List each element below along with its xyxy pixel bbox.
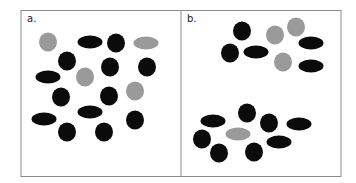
gray-ellipse-shape xyxy=(134,37,159,50)
gray-circle-shape xyxy=(287,18,305,37)
dark-circle-shape xyxy=(101,58,119,77)
panel-b-label: b. xyxy=(187,13,197,24)
dark-circle-shape xyxy=(52,88,70,107)
dark-ellipse-shape xyxy=(32,113,57,126)
dark-circle-shape xyxy=(233,22,251,41)
dark-ellipse-shape xyxy=(299,37,324,50)
gray-circle-shape xyxy=(274,53,292,72)
dark-circle-shape xyxy=(245,143,263,162)
dark-ellipse-shape xyxy=(201,115,226,128)
dark-circle-shape xyxy=(238,104,256,123)
gray-circle-shape xyxy=(266,26,284,45)
dark-circle-shape xyxy=(210,144,228,163)
dark-circle-shape xyxy=(100,87,118,106)
dark-circle-shape xyxy=(221,44,239,63)
dark-circle-shape xyxy=(58,52,76,71)
dark-circle-shape xyxy=(138,58,156,77)
dark-ellipse-shape xyxy=(299,60,324,73)
dark-circle-shape xyxy=(107,34,125,53)
dark-circle-shape xyxy=(193,130,211,149)
dark-ellipse-shape xyxy=(244,46,269,59)
gray-circle-shape xyxy=(76,68,94,87)
dark-ellipse-shape xyxy=(78,36,103,49)
dark-circle-shape xyxy=(126,111,144,130)
grouping-figure: a. b. xyxy=(0,0,356,183)
dark-circle-shape xyxy=(260,114,278,133)
gray-circle-shape xyxy=(126,82,144,101)
dark-ellipse-shape xyxy=(287,118,312,131)
dark-ellipse-shape xyxy=(78,106,103,119)
panel-a-label: a. xyxy=(27,13,36,24)
gray-ellipse-shape xyxy=(226,128,251,141)
dark-ellipse-shape xyxy=(267,136,292,149)
dark-ellipse-shape xyxy=(36,71,61,84)
dark-circle-shape xyxy=(58,123,76,142)
dark-circle-shape xyxy=(95,123,113,142)
gray-circle-shape xyxy=(39,33,57,52)
